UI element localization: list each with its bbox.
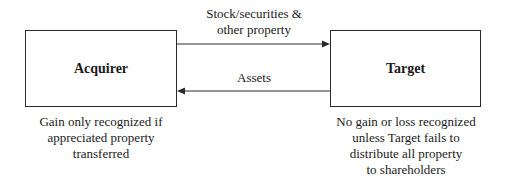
target-caption: No gain or loss recognized unless Target… xyxy=(310,114,502,178)
arrow-acquirer-to-target xyxy=(177,41,330,48)
edge-label-stock: Stock/securities & other property xyxy=(190,6,318,38)
caption-line: to shareholders xyxy=(310,162,502,178)
arrowhead-left-icon xyxy=(177,88,185,95)
caption-line: unless Target fails to xyxy=(310,130,502,146)
caption-line: distribute all property xyxy=(310,146,502,162)
edge-label-assets: Assets xyxy=(190,70,318,86)
arrow-target-to-acquirer xyxy=(177,88,330,95)
edge-label-line: other property xyxy=(190,22,318,38)
caption-line: Gain only recognized if xyxy=(10,114,192,130)
acquirer-caption: Gain only recognized if appreciated prop… xyxy=(10,114,192,162)
caption-line: transferred xyxy=(10,146,192,162)
arrowhead-right-icon xyxy=(322,41,330,48)
caption-line: appreciated property xyxy=(10,130,192,146)
edge-label-line: Stock/securities & xyxy=(190,6,318,22)
edge-label-line: Assets xyxy=(190,70,318,86)
caption-line: No gain or loss recognized xyxy=(310,114,502,130)
